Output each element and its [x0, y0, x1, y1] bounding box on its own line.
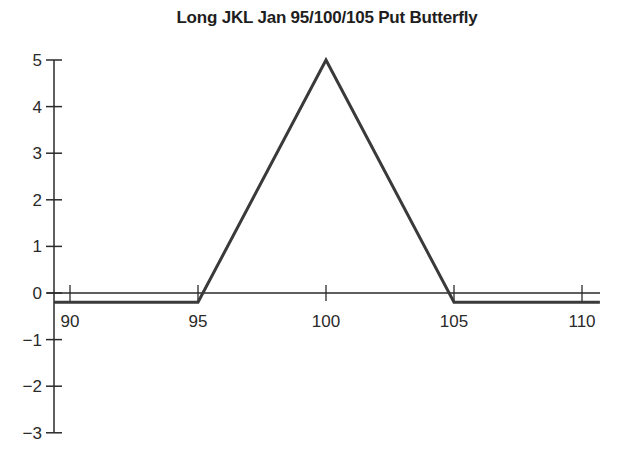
- y-tick-label: −1: [23, 331, 42, 350]
- payoff-line: [54, 60, 600, 302]
- y-tick-label: −3: [23, 424, 42, 443]
- x-tick-label: 95: [189, 312, 208, 331]
- y-tick-label: 0: [33, 284, 42, 303]
- y-tick-label: 1: [33, 237, 42, 256]
- x-tick-label: 105: [440, 312, 468, 331]
- payoff-series: [54, 60, 600, 302]
- y-tick-label: 3: [33, 144, 42, 163]
- y-tick-label: 2: [33, 191, 42, 210]
- y-tick-label: −2: [23, 377, 42, 396]
- x-tick-label: 110: [568, 312, 595, 331]
- x-tick-label: 100: [312, 312, 340, 331]
- y-tick-label: 4: [33, 98, 42, 117]
- y-tick-label: 5: [33, 51, 42, 70]
- x-tick-label: 90: [61, 312, 80, 331]
- payoff-chart: 543210−1−2−39095100105110: [0, 0, 627, 472]
- axes: 543210−1−2−39095100105110: [23, 51, 600, 443]
